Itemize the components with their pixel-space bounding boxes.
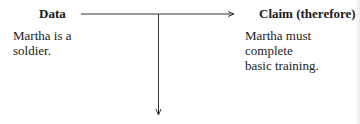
page-edge-shadow xyxy=(354,0,360,124)
data-to-claim-arrow xyxy=(81,12,234,17)
warrant-down-arrow xyxy=(156,14,161,115)
connector-lines xyxy=(0,0,360,124)
